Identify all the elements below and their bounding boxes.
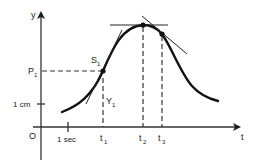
t3-subscript: 3 bbox=[162, 139, 166, 145]
t1-subscript: 1 bbox=[104, 139, 108, 145]
y-unit-label: 1 cm bbox=[13, 100, 31, 109]
point-peak bbox=[140, 22, 145, 27]
t2-subscript: 2 bbox=[143, 139, 147, 145]
y-axis-label: y bbox=[31, 10, 36, 20]
origin-label: O bbox=[29, 131, 36, 141]
point-t3 bbox=[159, 31, 164, 36]
tangent-s1 bbox=[86, 30, 122, 104]
position-curve bbox=[62, 25, 218, 112]
p1-subscript: 1 bbox=[34, 72, 38, 78]
t1-label: t bbox=[100, 133, 103, 143]
tangent-t3 bbox=[142, 16, 187, 54]
t3-label: t bbox=[158, 133, 161, 143]
t-axis-label: t bbox=[241, 132, 244, 142]
s1-subscript: 1 bbox=[97, 61, 101, 67]
y1-subscript: 1 bbox=[112, 102, 116, 108]
t2-label: t bbox=[139, 133, 142, 143]
position-time-diagram: y t O 1 sec 1 cm P 1 S 1 Y 1 t 1 t 2 t 3 bbox=[0, 0, 254, 161]
x-unit-label: 1 sec bbox=[57, 135, 76, 144]
point-s1 bbox=[100, 68, 105, 73]
